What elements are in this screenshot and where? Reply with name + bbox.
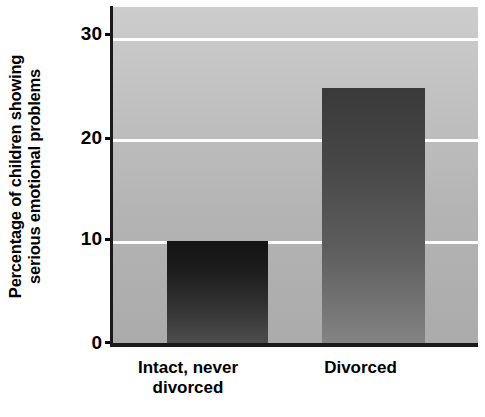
plot-area bbox=[113, 7, 478, 343]
x-category-label-intact: Intact, never divorced bbox=[120, 358, 256, 399]
y-tick-label-0: 0 bbox=[56, 333, 102, 352]
bar-chart: Percentage of children showing serious e… bbox=[0, 0, 485, 417]
gridline-30 bbox=[113, 38, 478, 41]
y-tick-label-10: 10 bbox=[56, 229, 102, 248]
x-category-label-divorced-line-1: Divorced bbox=[324, 358, 397, 377]
bar-divorced bbox=[322, 88, 425, 343]
x-category-label-intact-line-1: Intact, never bbox=[138, 358, 238, 377]
y-axis-title-line-1: Percentage of children showing bbox=[7, 54, 25, 297]
y-axis-title: Percentage of children showing serious e… bbox=[0, 0, 52, 352]
x-category-label-divorced: Divorced bbox=[288, 358, 433, 378]
y-axis-title-line-2: serious emotional problems bbox=[26, 54, 45, 297]
x-axis-line bbox=[110, 343, 478, 347]
y-tick-label-30: 30 bbox=[56, 24, 102, 43]
x-category-label-intact-line-2: divorced bbox=[120, 378, 256, 398]
y-axis-line bbox=[110, 6, 113, 346]
y-tick-label-20: 20 bbox=[56, 128, 102, 147]
bar-intact-never-divorced bbox=[167, 241, 268, 343]
